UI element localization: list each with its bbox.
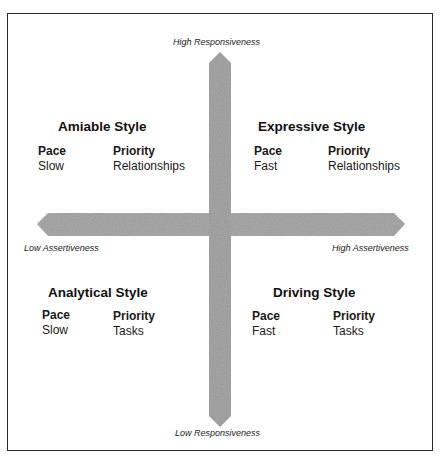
priority-value: Relationships (328, 159, 400, 174)
expressive-priority: Priority Relationships (328, 144, 400, 174)
priority-label: Priority (113, 309, 155, 324)
expressive-pace: Pace Fast (254, 144, 282, 174)
driving-pace: Pace Fast (252, 309, 280, 339)
axis-label-low-responsiveness: Low Responsiveness (175, 428, 260, 438)
axes-arrows (0, 0, 441, 469)
pace-label: Pace (252, 309, 280, 324)
pace-value: Fast (252, 324, 280, 339)
axis-label-low-assertiveness: Low Assertiveness (24, 243, 99, 253)
pace-value: Fast (254, 159, 282, 174)
pace-value: Slow (38, 159, 66, 174)
pace-value: Slow (42, 323, 70, 338)
driving-title: Driving Style (273, 285, 356, 300)
amiable-pace: Pace Slow (38, 144, 66, 174)
priority-value: Tasks (113, 324, 155, 339)
axis-label-high-responsiveness: High Responsiveness (173, 37, 260, 47)
pace-label: Pace (38, 144, 66, 159)
pace-label: Pace (254, 144, 282, 159)
vertical-axis-arrow (209, 52, 231, 427)
amiable-priority: Priority Relationships (113, 144, 185, 174)
priority-value: Relationships (113, 159, 185, 174)
priority-label: Priority (328, 144, 400, 159)
analytical-priority: Priority Tasks (113, 309, 155, 339)
analytical-pace: Pace Slow (42, 308, 70, 338)
priority-label: Priority (113, 144, 185, 159)
analytical-title: Analytical Style (48, 285, 148, 300)
driving-priority: Priority Tasks (333, 309, 375, 339)
expressive-title: Expressive Style (258, 119, 365, 134)
priority-label: Priority (333, 309, 375, 324)
priority-value: Tasks (333, 324, 375, 339)
pace-label: Pace (42, 308, 70, 323)
amiable-title: Amiable Style (58, 119, 147, 134)
axis-label-high-assertiveness: High Assertiveness (332, 243, 409, 253)
